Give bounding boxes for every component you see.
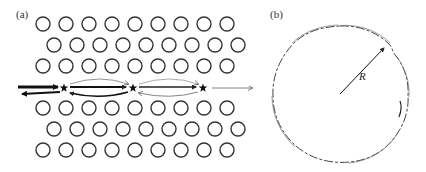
scattered-arc-upper-1	[70, 79, 128, 84]
lattice-rod	[197, 143, 211, 157]
lattice-rod	[36, 17, 50, 31]
figure-canvas	[0, 0, 426, 172]
lattice-rod	[197, 101, 211, 115]
lattice-rod	[59, 101, 73, 115]
panel-b-label: (b)	[270, 8, 283, 20]
lattice-rod	[151, 143, 165, 157]
figure: (a) (b) R	[0, 0, 426, 172]
lattice-rod	[231, 122, 245, 136]
lattice-rod	[82, 59, 96, 73]
lattice-rod	[162, 38, 176, 52]
lattice-rod	[151, 59, 165, 73]
lattice-rod	[208, 38, 222, 52]
lattice-rod	[151, 101, 165, 115]
lattice-rod	[162, 122, 176, 136]
lattice-rod	[47, 38, 61, 52]
lattice-rod	[59, 143, 73, 157]
lattice-rod	[185, 38, 199, 52]
lattice-rod	[36, 59, 50, 73]
lattice-rod	[128, 59, 142, 73]
reflected-arrow	[22, 92, 60, 94]
lattice-rod	[93, 38, 107, 52]
lattice-rod	[47, 122, 61, 136]
lattice-rod	[139, 38, 153, 52]
lattice-rod	[36, 143, 50, 157]
lattice-rod	[151, 17, 165, 31]
radius-label: R	[359, 70, 366, 82]
lattice-rod	[70, 122, 84, 136]
lattice-rod	[116, 38, 130, 52]
scatterer-star-icon	[60, 84, 69, 92]
lattice-rod	[82, 17, 96, 31]
lattice-rod	[128, 101, 142, 115]
inner-arc-segment	[399, 101, 401, 117]
lattice-rod	[220, 17, 234, 31]
lattice-rod	[59, 59, 73, 73]
lattice-rod	[93, 122, 107, 136]
back-scattered-arc-1	[70, 92, 128, 96]
lattice-rod	[36, 101, 50, 115]
lattice-rod	[174, 59, 188, 73]
scatterer-star-icon	[199, 84, 208, 92]
lattice-rod	[220, 143, 234, 157]
scatterer-star-icon	[129, 84, 138, 92]
lattice-rod	[197, 59, 211, 73]
lattice-rod	[128, 143, 142, 157]
lattice-rod	[139, 122, 153, 136]
lattice-rod	[220, 59, 234, 73]
lattice-rod	[128, 17, 142, 31]
lattice-rod	[82, 143, 96, 157]
lattice-rod	[174, 101, 188, 115]
scattered-arc-upper-2	[139, 79, 198, 84]
lattice-rod	[185, 122, 199, 136]
lattice-rod	[220, 101, 234, 115]
lattice-rod	[208, 122, 222, 136]
lattice-rod	[70, 38, 84, 52]
lattice-rod	[197, 17, 211, 31]
lattice-rod	[59, 17, 73, 31]
lattice-rod	[105, 143, 119, 157]
lattice-rod	[105, 59, 119, 73]
lattice-rod	[105, 101, 119, 115]
back-scattered-arc-2	[139, 92, 198, 96]
lattice-rod	[116, 122, 130, 136]
panel-a-label: (a)	[16, 8, 28, 20]
lattice-rod	[174, 17, 188, 31]
lattice-rod	[231, 38, 245, 52]
lattice-rod	[82, 101, 96, 115]
lattice-rod	[174, 143, 188, 157]
random-walk-loop	[272, 25, 409, 163]
lattice-rod	[105, 17, 119, 31]
